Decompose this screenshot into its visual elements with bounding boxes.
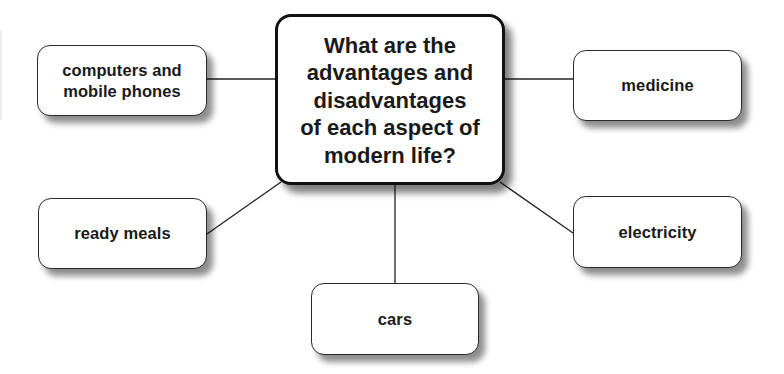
- node-ready-meals: ready meals: [38, 198, 207, 269]
- node-label: computers and: [62, 60, 182, 81]
- node-label: medicine: [621, 75, 693, 96]
- central-question-line: of each aspect of: [300, 114, 480, 142]
- node-label: electricity: [618, 222, 696, 243]
- central-question-line: advantages and: [300, 59, 480, 87]
- node-electricity: electricity: [573, 196, 742, 268]
- node-label: cars: [378, 309, 412, 330]
- central-question-line: disadvantages: [300, 87, 480, 115]
- central-question-line: What are the: [300, 32, 480, 60]
- central-question-node: What are the advantages and disadvantage…: [275, 14, 505, 185]
- connector-ready-meals: [207, 182, 281, 234]
- central-question-line: modern life?: [300, 142, 480, 170]
- node-medicine: medicine: [573, 50, 742, 121]
- node-cars: cars: [311, 283, 479, 355]
- scan-edge-artifact: [0, 30, 3, 120]
- node-label: mobile phones: [62, 81, 182, 102]
- connector-electricity: [500, 182, 573, 233]
- node-label: ready meals: [74, 223, 171, 244]
- node-computers-and-mobile-phones: computers and mobile phones: [37, 45, 207, 116]
